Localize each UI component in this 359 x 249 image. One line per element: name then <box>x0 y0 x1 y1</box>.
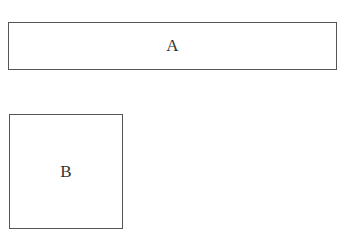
box-a: A <box>8 22 337 70</box>
box-b-label: B <box>60 162 71 182</box>
box-b: B <box>9 114 123 229</box>
box-a-label: A <box>166 36 178 56</box>
